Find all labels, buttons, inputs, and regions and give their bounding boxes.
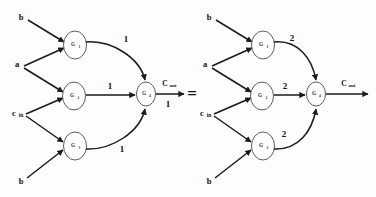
left-node-g4-label: G xyxy=(142,90,146,96)
right-node-g4-label: G xyxy=(312,90,316,96)
left-node-g4[interactable]: G 4 xyxy=(137,82,156,106)
right-weight-g1-to-g4: 2 xyxy=(290,33,295,43)
left-node-g2-sub: 2 xyxy=(78,96,80,100)
left-diagram: b a c in b G 1 G 2 xyxy=(12,12,184,186)
right-wire-b-top-to-g1 xyxy=(216,20,252,42)
left-node-g1-label: G xyxy=(71,41,75,47)
right-node-g2[interactable]: G 2 xyxy=(251,82,274,110)
right-diagram: b a c in b G 1 G 2 xyxy=(200,12,368,186)
left-input-label-b-top: b xyxy=(19,12,24,22)
left-wire-b-top-to-g1 xyxy=(28,20,64,42)
left-node-g3-sub: 3 xyxy=(79,146,81,150)
left-wire-a-to-g2 xyxy=(24,68,63,92)
right-input-label-cin: c in xyxy=(200,108,211,118)
left-node-g2[interactable]: G 2 xyxy=(63,82,86,110)
left-input-label-cin: c in xyxy=(12,108,23,118)
figure-canvas: b a c in b G 1 G 2 xyxy=(0,0,376,197)
right-node-g1[interactable]: G 1 xyxy=(252,31,275,59)
right-wire-cin-to-g2 xyxy=(214,98,251,114)
left-weight-g3-to-g4: 1 xyxy=(120,144,125,154)
left-node-g4-sub: 4 xyxy=(149,94,151,98)
left-input-label-b-bottom: b xyxy=(19,176,24,186)
right-node-g3-label: G xyxy=(259,142,263,148)
right-node-g1-label: G xyxy=(259,41,263,47)
left-edge-g3-to-g4 xyxy=(86,109,145,149)
left-output-label-cout-sub: out xyxy=(170,83,177,88)
right-output-label-cout-main: C xyxy=(341,79,346,88)
left-output-label-cout: C out xyxy=(162,79,177,88)
left-node-g3-label: G xyxy=(71,142,75,148)
left-input-label-a: a xyxy=(15,59,20,69)
left-weight-g2-to-g4: 1 xyxy=(108,81,113,91)
right-weight-g2-to-g4: 2 xyxy=(283,81,288,91)
right-input-label-cin-main: c xyxy=(200,108,204,118)
right-input-label-b-bottom: b xyxy=(207,176,212,186)
left-node-g2-label: G xyxy=(70,92,74,98)
right-edge-g1-to-g4 xyxy=(274,42,316,80)
left-node-g1[interactable]: G 1 xyxy=(64,31,87,59)
right-wire-a-to-g2 xyxy=(212,68,251,92)
right-wire-b-bottom-to-g3 xyxy=(215,150,251,178)
right-weight-g3-to-g4: 2 xyxy=(282,129,287,139)
left-output-label-cout-main: C xyxy=(162,79,167,88)
right-node-g2-sub: 2 xyxy=(266,96,268,100)
left-wire-a-to-g1 xyxy=(24,48,64,66)
right-node-g2-label: G xyxy=(258,92,262,98)
right-wire-cin-to-g3 xyxy=(214,116,251,142)
right-node-g1-sub: 1 xyxy=(267,45,269,49)
right-node-g4[interactable]: G 4 xyxy=(307,82,326,106)
right-node-g3[interactable]: G 3 xyxy=(252,132,275,160)
right-node-g3-sub: 3 xyxy=(267,146,269,150)
left-node-g1-sub: 1 xyxy=(79,45,81,49)
right-input-label-a: a xyxy=(203,59,208,69)
left-input-label-cin-main: c xyxy=(12,108,16,118)
left-weight-g1-to-g4: 1 xyxy=(124,34,129,44)
equals-sign: = xyxy=(187,84,197,103)
left-input-label-cin-sub: in xyxy=(19,112,24,118)
right-output-label-cout: C out xyxy=(341,79,356,88)
right-input-label-b-top: b xyxy=(207,12,212,22)
right-wire-a-to-g1 xyxy=(212,48,252,66)
right-edge-g3-to-g4 xyxy=(274,109,316,149)
left-node-g3[interactable]: G 3 xyxy=(64,132,87,160)
left-wire-cin-to-g3 xyxy=(26,116,63,142)
left-weight-g4-to-cout: 1 xyxy=(166,99,171,109)
left-wire-b-bottom-to-g3 xyxy=(27,150,63,178)
right-input-label-cin-sub: in xyxy=(207,112,212,118)
left-wire-cin-to-g2 xyxy=(26,98,63,114)
right-node-g4-sub: 4 xyxy=(319,94,321,98)
left-edge-g1-to-g4 xyxy=(86,42,145,80)
right-output-label-cout-sub: out xyxy=(349,83,356,88)
